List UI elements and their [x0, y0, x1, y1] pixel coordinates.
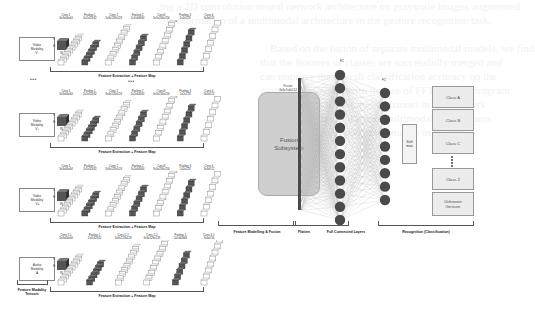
fc2-node [380, 141, 390, 151]
fc1-node [335, 162, 345, 172]
label-line: max [406, 144, 413, 149]
flatten-bar [298, 78, 301, 210]
fc2-top-label: FC [378, 78, 390, 82]
fc1-top-label: FC [336, 59, 348, 63]
fc1-node [335, 96, 345, 106]
fc2-node [380, 168, 390, 178]
fc1-node [335, 149, 345, 159]
class-label: Class C [446, 141, 461, 146]
class-b-box: Class B [432, 109, 474, 131]
fusion-bracket-label: Feature Modelling & Fusion [218, 230, 296, 234]
fc-bracket-label: Full Connected Layers [318, 230, 374, 234]
fc1-node [335, 202, 345, 212]
fc2-node [380, 128, 390, 138]
fc1-node [335, 175, 345, 185]
flatten-label: Flatten [290, 230, 318, 234]
vertical-ellipsis-icon [451, 156, 454, 168]
fc2-node [380, 88, 390, 98]
fc2-node [380, 195, 390, 205]
class-label: Class A [446, 95, 460, 100]
fc1-node [335, 70, 345, 80]
flatten-bracket [293, 221, 349, 226]
fc2-node [380, 155, 390, 165]
unknown-gesture-box: Unknown Gesture [432, 192, 474, 216]
softmax-box: Soft max [402, 124, 417, 164]
class-c-box: Class C [432, 132, 474, 154]
fc2-node [380, 101, 390, 111]
fc1-node [335, 123, 345, 133]
fc1-node [335, 83, 345, 93]
fc1-node [335, 109, 345, 119]
fc1-node [335, 188, 345, 198]
fusion-bracket [218, 221, 296, 226]
fc2-node [380, 181, 390, 191]
label-line: Gesture [444, 204, 461, 209]
class-label: Class Z [446, 177, 460, 182]
fc1-node [335, 136, 345, 146]
class-z-box: Class Z [432, 168, 474, 190]
recognition-bracket [378, 221, 474, 226]
recognition-bracket-label: Recognition (Classification) [378, 230, 474, 234]
class-label: Class B [446, 118, 460, 123]
class-a-box: Class A [432, 86, 474, 108]
fc2-node [380, 115, 390, 125]
